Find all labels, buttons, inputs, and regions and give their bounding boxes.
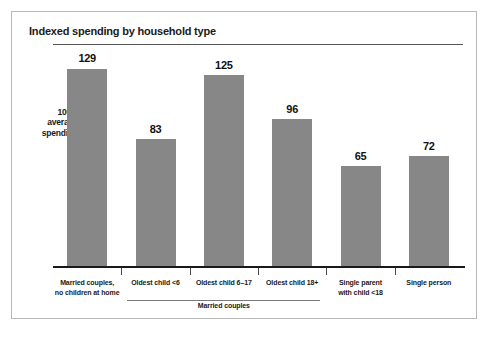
category-label: Single person [395,278,463,288]
category-label-line-1: Oldest child 6–17 [190,278,258,288]
bar-value-label: 96 [267,103,317,115]
category-label-line-1: Oldest child 18+ [258,278,326,288]
plot-area: 12983125966572 [53,44,463,266]
axis-tick [395,268,396,275]
chart-title: Indexed spending by household type [29,25,216,37]
bar [409,156,449,266]
married-couples-bracket-label: Married couples [127,302,320,309]
figure-panel: Indexed spending by household type 100 =… [11,11,477,319]
category-label-line-1: Oldest child <6 [121,278,189,288]
category-label: Oldest child <6 [121,278,189,288]
axis-tick [190,268,191,275]
category-label: Single parentwith child <18 [326,278,394,298]
category-label-line-2: with child <18 [326,288,394,298]
bar [136,139,176,266]
bar-value-label: 72 [404,140,454,152]
axis-tick [121,268,122,275]
reference-line-100 [53,44,463,45]
x-axis-baseline [53,266,465,268]
axis-tick [258,268,259,275]
bar [204,75,244,266]
bar [272,119,312,266]
bar-value-label: 129 [62,52,112,64]
bar [341,166,381,266]
category-label-line-1: Single parent [326,278,394,288]
category-label: Married couples,no children at home [53,278,121,298]
axis-tick [326,268,327,275]
category-label-line-1: Single person [395,278,463,288]
category-label: Oldest child 6–17 [190,278,258,288]
category-label-line-1: Married couples, [53,278,121,288]
category-label: Oldest child 18+ [258,278,326,288]
bar [67,69,107,267]
bar-value-label: 125 [199,59,249,71]
bar-value-label: 65 [336,150,386,162]
category-label-line-2: no children at home [53,288,121,298]
bar-value-label: 83 [131,123,181,135]
married-couples-bracket [127,300,320,301]
